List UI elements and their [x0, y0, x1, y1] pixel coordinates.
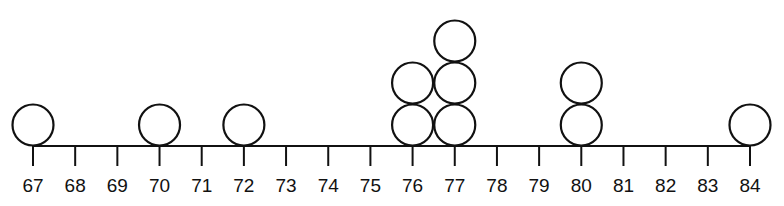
data-dot — [392, 63, 433, 104]
tick-label: 78 — [486, 175, 507, 196]
tick-label: 83 — [697, 175, 718, 196]
tick-label: 74 — [318, 175, 340, 196]
tick-label: 70 — [149, 175, 170, 196]
tick-label: 75 — [360, 175, 381, 196]
tick-label: 80 — [571, 175, 592, 196]
ticks-group — [33, 146, 750, 166]
tick-label: 79 — [529, 175, 550, 196]
data-dot — [13, 105, 54, 146]
data-dot — [730, 105, 771, 146]
tick-label: 81 — [613, 175, 634, 196]
tick-label: 71 — [191, 175, 212, 196]
tick-label: 67 — [22, 175, 43, 196]
data-dot — [434, 21, 475, 62]
tick-label: 72 — [233, 175, 254, 196]
tick-label: 82 — [655, 175, 676, 196]
tick-label: 69 — [107, 175, 128, 196]
data-dot — [434, 105, 475, 146]
data-dot — [434, 63, 475, 104]
tick-label: 84 — [739, 175, 761, 196]
data-dot — [223, 105, 264, 146]
dot-plot: 676869707172737475767778798081828384 — [0, 0, 784, 206]
tick-labels-group: 676869707172737475767778798081828384 — [22, 175, 761, 196]
data-dot — [561, 105, 602, 146]
dots-group — [13, 21, 771, 146]
data-dot — [392, 105, 433, 146]
tick-label: 76 — [402, 175, 423, 196]
tick-label: 77 — [444, 175, 465, 196]
tick-label: 68 — [65, 175, 86, 196]
data-dot — [561, 63, 602, 104]
data-dot — [139, 105, 180, 146]
tick-label: 73 — [275, 175, 296, 196]
